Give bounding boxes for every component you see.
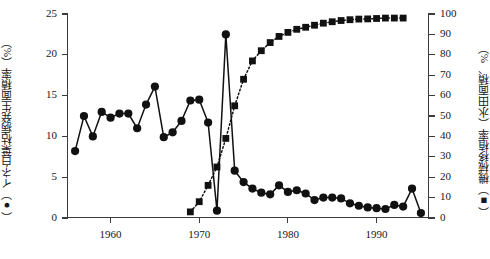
data-point-circle [364, 203, 372, 211]
data-point-circle [151, 83, 159, 91]
data-point-square [240, 76, 247, 83]
data-point-circle [372, 204, 380, 212]
data-point-circle [160, 133, 168, 141]
data-point-square [258, 47, 265, 54]
data-point-circle [106, 114, 114, 122]
data-point-circle [337, 194, 345, 202]
data-point-circle [222, 30, 230, 38]
data-point-square [338, 17, 345, 24]
leaf-blight-markers [71, 30, 425, 217]
data-point-circle [381, 205, 389, 213]
data-point-circle [115, 109, 123, 117]
data-point-circle [302, 189, 310, 197]
data-point-circle [213, 207, 221, 215]
data-point-square [285, 29, 292, 36]
data-point-circle [284, 188, 292, 196]
data-point-circle [71, 147, 79, 155]
data-point-circle [390, 201, 398, 209]
data-point-square [320, 20, 327, 27]
data-point-square [400, 15, 407, 22]
leaf-blight-line [75, 34, 421, 213]
data-point-circle [142, 100, 150, 108]
data-point-circle [89, 132, 97, 140]
data-point-square [196, 198, 203, 205]
data-point-square [329, 18, 336, 25]
series-layer [0, 0, 490, 259]
data-point-square [373, 15, 380, 22]
data-point-square [187, 208, 194, 215]
data-point-circle [355, 202, 363, 210]
data-point-circle [204, 118, 212, 126]
machine-transplanting-markers [187, 15, 407, 216]
data-point-circle [328, 194, 336, 202]
data-point-square [214, 164, 221, 171]
data-point-circle [177, 117, 185, 125]
data-point-circle [169, 128, 177, 136]
data-point-circle [239, 178, 247, 186]
data-point-square [222, 135, 229, 142]
data-point-circle [231, 167, 239, 175]
data-point-circle [346, 199, 354, 207]
data-point-circle [186, 96, 194, 104]
data-point-circle [195, 96, 203, 104]
data-point-circle [399, 202, 407, 210]
data-point-square [205, 182, 212, 189]
data-point-circle [98, 108, 106, 116]
data-point-circle [257, 189, 265, 197]
data-point-circle [417, 209, 425, 217]
data-point-square [231, 102, 238, 109]
data-point-square [276, 33, 283, 40]
data-point-square [302, 24, 309, 31]
data-point-circle [133, 124, 141, 132]
data-point-square [364, 16, 371, 23]
data-point-circle [293, 186, 301, 194]
data-point-square [249, 58, 256, 65]
data-point-circle [248, 185, 256, 193]
data-point-square [391, 15, 398, 22]
data-point-square [293, 26, 300, 33]
data-point-circle [80, 112, 88, 120]
data-point-square [382, 15, 389, 22]
chart-figure: （●）イネ白葉枯病発生面積率（%） （■）機械移植率（水田面積、%） 05101… [0, 0, 490, 259]
data-point-circle [310, 196, 318, 204]
data-point-circle [319, 194, 327, 202]
data-point-circle [266, 190, 274, 198]
data-point-square [347, 16, 354, 23]
data-point-square [355, 16, 362, 23]
data-point-circle [124, 109, 132, 117]
data-point-square [311, 22, 318, 29]
data-point-square [267, 39, 274, 46]
data-point-circle [275, 181, 283, 189]
data-point-circle [408, 185, 416, 193]
